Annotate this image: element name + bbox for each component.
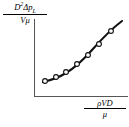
data-markers bbox=[43, 29, 114, 84]
plot-area bbox=[0, 0, 129, 127]
data-point-marker bbox=[86, 53, 91, 58]
data-point-marker bbox=[75, 62, 80, 67]
data-point-marker bbox=[109, 29, 114, 34]
data-point-marker bbox=[54, 75, 59, 80]
dimensionless-plot-figure: D2ΔpL Vμ ρVD μ bbox=[0, 0, 129, 127]
data-point-marker bbox=[43, 79, 48, 84]
data-point-marker bbox=[97, 42, 102, 47]
data-point-marker bbox=[64, 70, 69, 75]
